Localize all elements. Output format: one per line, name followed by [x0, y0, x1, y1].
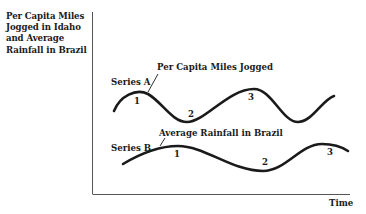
series-a-point-1: 1: [134, 96, 140, 106]
series-a-point-3: 3: [248, 92, 254, 102]
series-b-name: Series B: [111, 143, 151, 153]
series-b-point-3: 3: [327, 147, 333, 157]
series-b-description: Average Rainfall in Brazil: [159, 128, 283, 138]
series-b-point-2: 2: [262, 157, 268, 167]
chart-plot-area: [0, 0, 366, 214]
series-a-description: Per Capita Miles Jogged: [157, 62, 273, 72]
series-a-name: Series A: [111, 77, 150, 87]
series-a-point-2: 2: [188, 109, 194, 119]
series-b-label-leader: [160, 138, 165, 146]
series-a-curve: [114, 89, 334, 122]
series-b-point-1: 1: [174, 149, 180, 159]
x-axis-label: Time: [329, 198, 353, 208]
series-b-curve: [123, 144, 348, 171]
